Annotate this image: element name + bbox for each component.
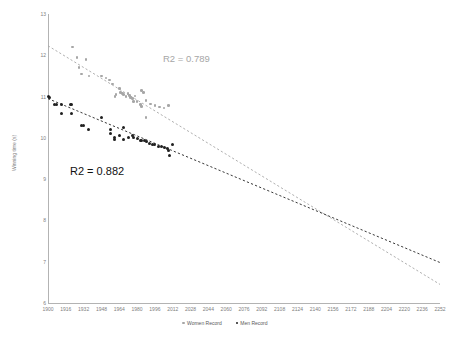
data-point (140, 105, 143, 108)
legend-item-men[interactable]: Men Record (236, 320, 268, 326)
data-point (70, 112, 73, 115)
legend-label-women: Women Record (187, 320, 222, 326)
data-point (60, 112, 63, 115)
data-point (118, 134, 121, 137)
data-point (132, 100, 135, 103)
y-tick-label: 12 (24, 52, 46, 58)
trendlines-group (48, 14, 440, 303)
data-point (168, 154, 171, 157)
y-axis-title: Winning time (s) (11, 113, 17, 193)
legend-marker-women-icon (182, 322, 185, 325)
legend-item-women[interactable]: Women Record (182, 320, 221, 326)
y-tick-label: 13 (24, 11, 46, 17)
data-point (158, 106, 161, 109)
data-point (100, 116, 103, 119)
data-point (142, 91, 145, 94)
data-point (109, 128, 112, 131)
legend-label-men: Men Record (240, 320, 267, 326)
x-axis-tick-labels: 1900191619321948196419801996201220282044… (0, 306, 450, 318)
y-tick-label: 7 (24, 259, 46, 265)
data-point (154, 104, 157, 107)
r2-annotation-women: R2 = 0.789 (163, 53, 210, 64)
data-point (125, 95, 128, 98)
data-point (80, 73, 83, 76)
plot-area (48, 14, 440, 303)
data-point (100, 75, 103, 78)
data-point (48, 96, 51, 99)
y-tick-label: 9 (24, 176, 46, 182)
data-point (87, 128, 90, 131)
data-point (167, 104, 170, 107)
chart-legend: Women Record Men Record (0, 320, 450, 326)
x-axis-line (48, 303, 440, 304)
data-point (118, 87, 121, 90)
data-point (167, 149, 170, 152)
legend-marker-men-icon (236, 322, 239, 325)
y-tick-label: 8 (24, 217, 46, 223)
y-tick-label: 11 (24, 94, 46, 100)
r2-annotation-men: R2 = 0.882 (70, 165, 124, 177)
y-tick-label: 10 (24, 135, 46, 141)
data-point (108, 79, 111, 82)
y-axis-tick-labels: 678910111213 (20, 0, 46, 347)
x-tick-label: 2252 (428, 306, 450, 313)
data-point (85, 58, 88, 61)
data-point (115, 93, 118, 96)
trendline (48, 99, 440, 263)
scatter-chart: Winning time (s) 678910111213 1900191619… (0, 0, 450, 347)
data-point (76, 56, 79, 59)
